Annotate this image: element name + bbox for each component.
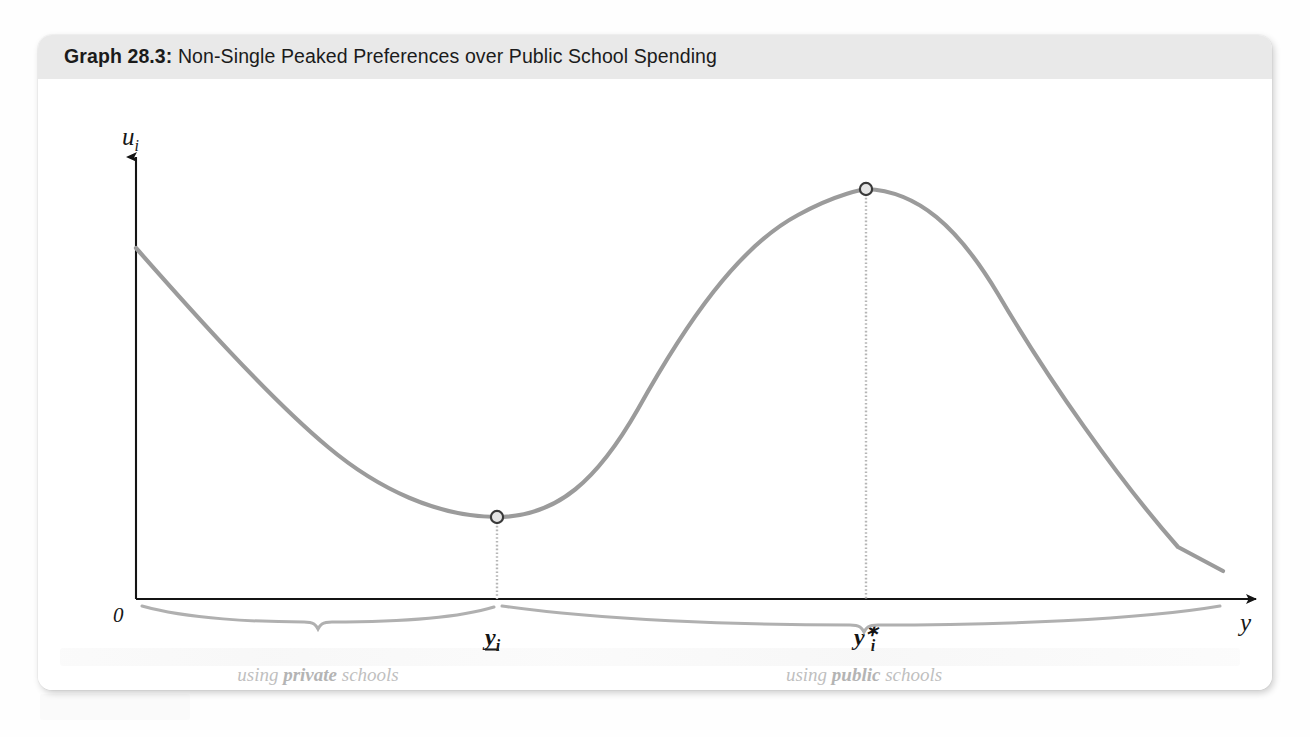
caption-public-prefix: using: [786, 664, 832, 685]
plot-area: ui y 0 yi y∗i: [38, 79, 1272, 690]
utility-curve-group: [136, 189, 1223, 571]
caption-private-strong: private: [281, 664, 337, 685]
y-axis-label: ui: [122, 123, 139, 154]
utility-curve: [136, 189, 1223, 571]
caption-public-schools: using public schools: [786, 664, 942, 685]
tick-local-min-base: y: [482, 624, 496, 650]
brace-public-schools: [502, 606, 1220, 632]
caption-public-suffix: schools: [880, 664, 942, 685]
brace-private-schools: [142, 606, 494, 629]
axis-labels-group: ui y 0: [113, 123, 1252, 636]
plot-svg: ui y 0 yi y∗i: [38, 79, 1272, 690]
axes-group: [136, 157, 1256, 599]
markers-group: [491, 183, 872, 523]
braces-group: [142, 606, 1220, 632]
figure-title: Graph 28.3: Non-Single Peaked Preference…: [64, 45, 717, 68]
y-axis-label-base: u: [122, 123, 135, 150]
figure-card: Graph 28.3: Non-Single Peaked Preference…: [38, 35, 1272, 690]
brace-captions-group: using private schools using public schoo…: [237, 664, 942, 685]
tick-local-min-subscript: i: [496, 637, 501, 654]
y-axis-label-subscript: i: [135, 137, 139, 154]
caption-public-strong: public: [830, 664, 881, 685]
droplines-group: [497, 194, 866, 599]
caption-private-prefix: using: [237, 664, 283, 685]
figure-title-text: Non-Single Peaked Preferences over Publi…: [178, 45, 717, 67]
x-axis-label: y: [1237, 609, 1252, 636]
marker-global-peak[interactable]: [860, 183, 872, 195]
figure-number-label: Graph 28.3:: [64, 45, 172, 67]
caption-private-schools: using private schools: [237, 664, 399, 685]
tick-peak-subscript: i: [871, 637, 876, 654]
marker-local-minimum[interactable]: [491, 511, 503, 523]
origin-label: 0: [113, 603, 124, 627]
caption-private-suffix: schools: [337, 664, 399, 685]
